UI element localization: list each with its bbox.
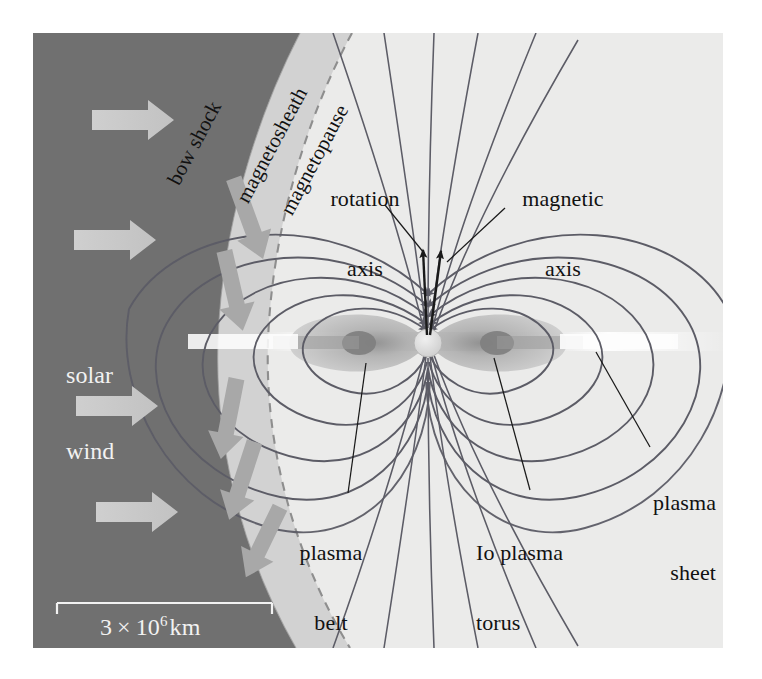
solar-wind-label: solar wind [66,312,114,516]
plasma-belt-label-line1: plasma [272,541,390,564]
figure-canvas: solar wind bow shock magnetosheath magne… [0,0,762,679]
scale-bar-value: 3 [100,614,112,640]
solar-wind-label-line1: solar [66,363,114,388]
magnetic-axis-label-line1: magnetic [500,187,626,210]
plasma-belt-label-line2: belt [272,611,390,634]
magnetic-axis-label-line2: axis [500,257,626,280]
plasma-sheet-label-line2: sheet [594,561,716,584]
rotation-axis-label-line1: rotation [306,187,424,210]
plasma-sheet-label: plasma sheet [594,444,716,631]
scale-bar-unit: km [168,614,201,640]
scale-bar-base: 10 [136,614,160,640]
rotation-axis-label: rotation axis [306,140,424,327]
solar-wind-label-line2: wind [66,439,114,464]
plasma-belt-label: plasma belt [272,494,390,679]
plasma-sheet-label-line1: plasma [594,491,716,514]
rotation-axis-label-line2: axis [306,257,424,280]
scale-bar-exponent: 6 [160,613,168,629]
scale-bar-label: 3×106km [100,614,200,640]
magnetic-axis-label: magnetic axis [500,140,626,327]
scale-bar-multiplier: × [112,614,136,640]
